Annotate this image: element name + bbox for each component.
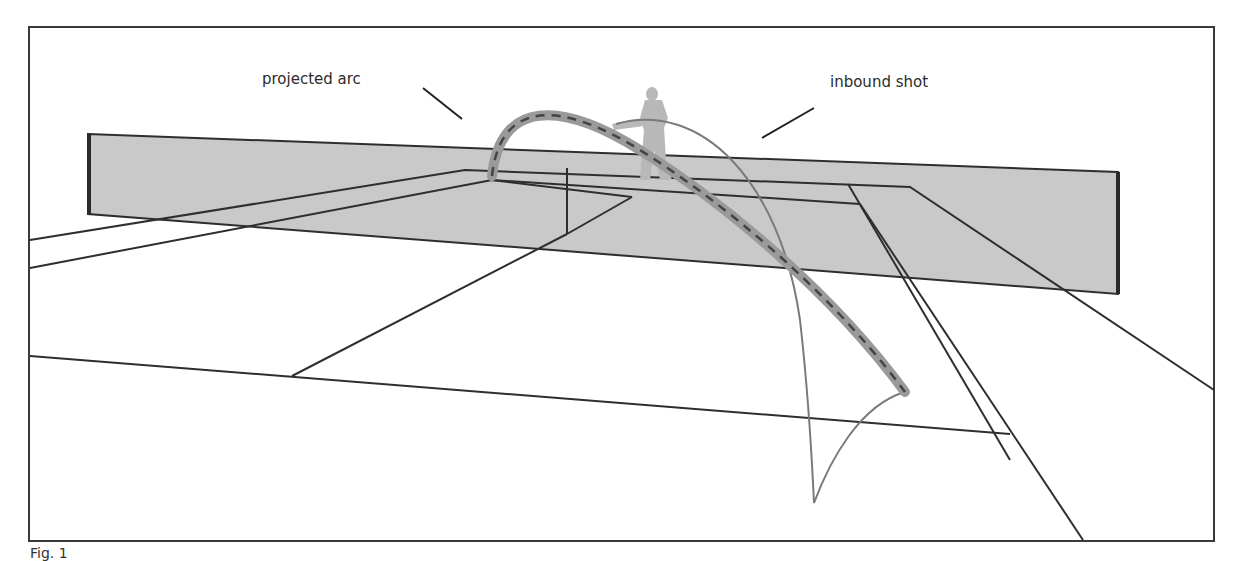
projected-arc-label: projected arc: [262, 70, 361, 88]
inbound-shot-label: inbound shot: [830, 73, 928, 91]
projected-arc-pointer: [423, 88, 462, 119]
inbound-shot-pointer: [762, 108, 814, 138]
figure-caption: Fig. 1: [30, 546, 68, 560]
